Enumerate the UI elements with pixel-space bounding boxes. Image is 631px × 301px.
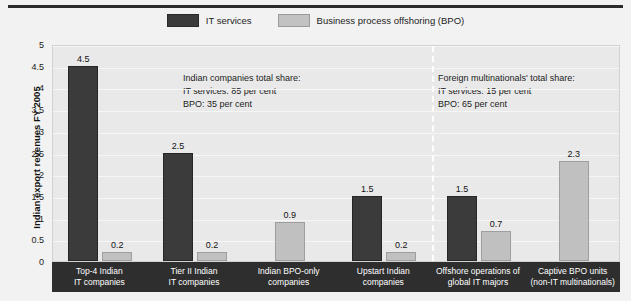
bar-bpo[interactable]	[481, 231, 511, 261]
y-axis-tick-label: 5	[39, 40, 44, 50]
bar-bpo[interactable]	[197, 252, 227, 261]
bar-value-label: 0.9	[283, 210, 296, 220]
bar-it-services[interactable]	[447, 196, 477, 261]
bar-group: 1.50.7	[432, 46, 527, 261]
bar-bpo[interactable]	[559, 161, 589, 261]
bottom-rule	[0, 294, 631, 296]
y-axis-tick-label: 0	[39, 257, 44, 267]
bar-value-label: 0.2	[111, 240, 124, 250]
bar-value-label: 0.2	[206, 240, 219, 250]
bar-bpo[interactable]	[386, 252, 416, 261]
category-label-band: Top-4 Indian IT companiesTier II Indian …	[52, 262, 620, 292]
bar-value-label: 1.5	[456, 184, 469, 194]
section-divider	[432, 46, 434, 261]
bar-value-label: 0.7	[490, 219, 503, 229]
category-label: Top-4 Indian IT companies	[52, 262, 147, 292]
bar-value-label: 1.5	[361, 184, 374, 194]
legend-label-bpo: Business process offshoring (BPO)	[317, 15, 465, 26]
y-axis-title: Indian export revenues FY 2005	[31, 78, 42, 238]
category-label: Captive BPO units (non-IT multinationals…	[525, 262, 620, 292]
bar-value-label: 2.5	[172, 141, 185, 151]
category-label: Offshore operations of global IT majors	[431, 262, 526, 292]
chart-container: IT services Business process offshoring …	[0, 0, 631, 301]
bar-group: 4.50.2	[53, 46, 148, 261]
top-divider-rule	[8, 5, 623, 8]
legend-item-it-services: IT services	[167, 14, 252, 27]
bar-group: 0.9	[242, 46, 337, 261]
category-label: Upstart Indian companies	[336, 262, 431, 292]
bar-value-label: 0.2	[395, 240, 408, 250]
category-label: Tier II Indian IT companies	[147, 262, 242, 292]
legend-item-bpo: Business process offshoring (BPO)	[278, 14, 465, 27]
legend-swatch-it-icon	[167, 14, 199, 27]
plot-area: Indian companies total share: IT service…	[52, 45, 620, 262]
bar-it-services[interactable]	[68, 66, 98, 261]
bar-value-label: 4.5	[77, 54, 90, 64]
bar-it-services[interactable]	[163, 153, 193, 262]
bar-group: 2.50.2	[148, 46, 243, 261]
bar-it-services[interactable]	[352, 196, 382, 261]
category-label: Indian BPO-only companies	[241, 262, 336, 292]
y-axis-tick-label: 4.5	[31, 62, 44, 72]
legend-swatch-bpo-icon	[278, 14, 310, 27]
bar-value-label: 2.3	[567, 149, 580, 159]
bar-bpo[interactable]	[275, 222, 305, 261]
legend-label-it-services: IT services	[206, 15, 252, 26]
chart-legend: IT services Business process offshoring …	[0, 14, 631, 27]
bar-group: 1.50.2	[337, 46, 432, 261]
bar-bpo[interactable]	[102, 252, 132, 261]
bar-group: 2.3	[526, 46, 621, 261]
